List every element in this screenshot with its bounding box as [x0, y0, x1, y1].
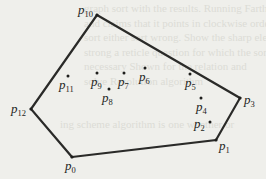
- label-subscript-p6: 6: [146, 76, 150, 86]
- label-subscript-p7: 7: [125, 81, 129, 91]
- label-subscript-p8: 8: [109, 97, 113, 107]
- label-subscript-p5: 5: [192, 82, 196, 92]
- label-subscript-p2: 2: [201, 123, 205, 133]
- convex-hull-diagram: p0p1p2p3p4p5p6p7p8p9p10p11p12: [0, 0, 266, 179]
- label-p7: p7: [117, 74, 129, 91]
- label-subscript-p10: 10: [85, 9, 94, 19]
- point-p1: [214, 138, 217, 141]
- label-subscript-p9: 9: [98, 81, 102, 91]
- label-p5: p5: [184, 75, 196, 92]
- label-subscript-p1: 1: [226, 145, 230, 155]
- label-p8: p8: [101, 90, 113, 107]
- point-p11: [67, 75, 70, 78]
- label-p1: p1: [218, 138, 230, 155]
- label-subscript-p12: 12: [18, 108, 27, 118]
- label-subscript-p0: 0: [72, 165, 76, 175]
- label-p3: p3: [243, 92, 255, 109]
- label-p6: p6: [138, 69, 150, 86]
- label-p0: p0: [64, 158, 76, 175]
- label-subscript-p4: 4: [203, 106, 208, 116]
- label-p9: p9: [90, 74, 102, 91]
- label-subscript-p11: 11: [66, 84, 74, 94]
- point-p2: [209, 121, 212, 124]
- label-subscript-p3: 3: [251, 99, 255, 109]
- label-p12: p12: [10, 101, 26, 118]
- label-p2: p2: [193, 116, 205, 133]
- point-p12: [29, 107, 32, 110]
- label-p10: p10: [77, 2, 93, 19]
- label-p11: p11: [58, 77, 74, 94]
- point-p3: [238, 96, 241, 99]
- point-p10: [95, 13, 98, 16]
- label-p4: p4: [195, 99, 208, 116]
